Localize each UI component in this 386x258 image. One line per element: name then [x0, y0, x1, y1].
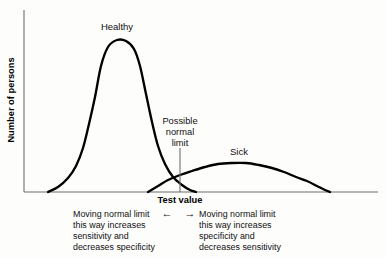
y-axis-label: Number of persons [6, 57, 16, 142]
x-axis-label: Test value [158, 195, 203, 205]
sick-distribution-curve [148, 163, 330, 192]
right-annotation-line2: this way increases [199, 220, 272, 230]
normal-limit-label-line3: limit [172, 138, 189, 148]
normal-limit-label-line1: Possible [162, 116, 197, 126]
normal-limit-label-line2: normal [166, 127, 194, 137]
right-arrow-icon: → [185, 207, 196, 219]
healthy-curve-label: Healthy [101, 21, 133, 32]
right-annotation-line3: specificity and [199, 231, 255, 241]
figure-container: Healthy Sick Possible normal limit Test … [0, 0, 386, 258]
right-annotation-line1: Moving normal limit [199, 209, 276, 219]
left-annotation-line3: sensitivity and [73, 231, 129, 241]
roc-distribution-diagram: Healthy Sick Possible normal limit Test … [0, 0, 386, 258]
sick-curve-label: Sick [230, 146, 248, 157]
left-annotation-line2: this way increases [73, 220, 146, 230]
left-arrow-icon: ← [162, 207, 173, 219]
left-annotation-line1: Moving normal limit [73, 209, 150, 219]
left-annotation-line4: decreases specificity [73, 242, 155, 252]
right-annotation-line4: decreases sensitivity [199, 242, 281, 252]
